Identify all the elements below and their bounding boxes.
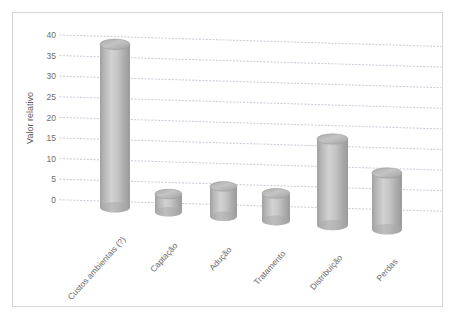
x-label-captacao: Captação (148, 240, 180, 274)
x-label-aducao: Adução (207, 244, 234, 272)
y-tick-10: 10 (47, 154, 57, 164)
y-tick-5: 5 (51, 174, 56, 184)
bar-perdas[interactable] (372, 168, 402, 235)
y-tick-35: 35 (47, 51, 57, 61)
bar-distribuicao[interactable] (317, 134, 348, 230)
x-label-custos-ambientais: Custos ambientais (?) (66, 234, 128, 301)
x-label-perdas: Perdas (374, 257, 399, 283)
bar-captacao[interactable] (155, 189, 182, 216)
bar-tratamento[interactable] (262, 189, 290, 226)
chart-canvas: 40 35 30 25 20 15 10 5 0 Valor relativo (0, 0, 455, 322)
bar-aducao[interactable] (210, 182, 237, 222)
y-tick-30: 30 (47, 71, 57, 81)
y-axis-label: Valor relativo (25, 92, 35, 144)
bar-custos-ambientais[interactable] (100, 39, 130, 212)
x-label-distribuicao: Distribuição (308, 252, 345, 291)
y-tick-15: 15 (47, 133, 57, 143)
y-axis-ticks: 40 35 30 25 20 15 10 5 0 (47, 30, 57, 205)
x-axis-labels: Custos ambientais (?) Captação Adução Tr… (66, 234, 400, 301)
y-tick-0: 0 (51, 195, 56, 205)
y-tick-40: 40 (47, 30, 57, 40)
y-tick-25: 25 (47, 92, 57, 102)
y-tick-20: 20 (47, 113, 57, 123)
x-label-tratamento: Tratamento (252, 248, 288, 287)
chart-screenshot: 40 35 30 25 20 15 10 5 0 Valor relativo (0, 0, 455, 322)
